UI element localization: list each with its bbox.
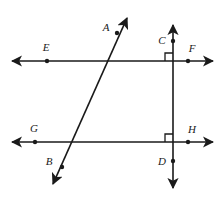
point-dot-e — [45, 59, 49, 63]
point-label-h: H — [187, 123, 197, 135]
point-dot-a — [115, 31, 119, 35]
point-dot-h — [186, 140, 190, 144]
point-label-a: A — [102, 21, 110, 33]
transversal-line — [53, 18, 127, 184]
point-label-b: B — [46, 155, 53, 167]
point-dot-d — [171, 159, 175, 163]
right-angle-marker-bottom — [165, 134, 173, 142]
point-label-d: D — [157, 155, 166, 167]
point-label-e: E — [42, 41, 50, 53]
geometry-figure: A B C D E F G H — [0, 0, 221, 200]
geometry-diagram: A B C D E F G H — [0, 0, 221, 200]
point-label-f: F — [188, 42, 196, 54]
point-dot-g — [33, 140, 37, 144]
point-dot-f — [186, 59, 190, 63]
point-dot-c — [171, 39, 175, 43]
right-angle-marker-top — [165, 53, 173, 61]
point-label-c: C — [158, 34, 166, 46]
point-dot-b — [60, 165, 64, 169]
point-label-g: G — [30, 122, 38, 134]
